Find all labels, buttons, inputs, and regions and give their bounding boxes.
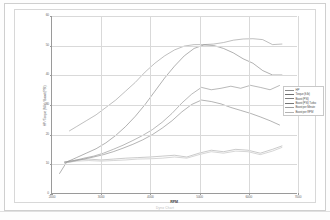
legend-item-label: Boost (PSI)	[296, 98, 309, 101]
x-axis-tick-label: 4000	[147, 196, 154, 199]
y-axis-tick-label: 30	[46, 103, 49, 106]
legend-swatch-line-icon	[285, 112, 294, 113]
grid-line-horizontal	[52, 105, 297, 106]
series-line-2	[64, 85, 280, 162]
y-axis-tick-mark	[50, 46, 52, 47]
grid-line-horizontal	[52, 16, 297, 17]
grid-line-vertical	[150, 16, 151, 193]
plot-area: 0102030405060200030004000500060007000	[51, 16, 297, 194]
x-axis-tick-label: 2000	[49, 196, 56, 199]
chart-legend: HPTorque (ft-lb)Boost (PSI)Boost (PSI) T…	[283, 86, 324, 116]
x-axis-title: RPM	[51, 200, 297, 204]
screenshot-root: HP / Torque (ft-lb) / Boost (PSI) 010203…	[0, 0, 330, 220]
x-axis-tick-label: 5000	[196, 196, 203, 199]
y-axis-tick-mark	[50, 16, 52, 17]
x-axis-tick-label: 3000	[98, 196, 105, 199]
x-axis-tick-label: 6000	[245, 196, 252, 199]
legend-swatch-line-icon	[285, 98, 294, 99]
grid-line-horizontal	[52, 46, 297, 47]
y-axis-tick-label: 50	[46, 44, 49, 47]
legend-swatch-line-icon	[285, 103, 294, 104]
y-axis-tick-mark	[50, 164, 52, 165]
series-line-3	[64, 100, 280, 163]
page-caption: Dyno Chart	[0, 206, 330, 210]
y-axis-tick-label: 40	[46, 74, 49, 77]
y-axis-tick-mark	[50, 135, 52, 136]
legend-swatch-line-icon	[285, 90, 294, 91]
y-axis-tick-mark	[50, 105, 52, 106]
grid-line-horizontal	[52, 135, 297, 136]
grid-line-vertical	[101, 16, 102, 193]
legend-item-label: Torque (ft-lb)	[296, 93, 310, 96]
legend-swatch-line-icon	[285, 94, 294, 95]
y-axis-tick-label: 20	[46, 133, 49, 136]
legend-item-label: Boost per Minute	[296, 106, 315, 109]
legend-swatch-line-icon	[285, 107, 294, 108]
sheet-edge-divider	[0, 211, 330, 212]
grid-line-horizontal	[52, 75, 297, 76]
legend-item[interactable]: Boost per RPM	[285, 110, 322, 114]
y-axis-tick-mark	[50, 75, 52, 76]
grid-line-vertical	[249, 16, 250, 193]
x-axis-tick-label: 7000	[295, 196, 302, 199]
grid-line-horizontal	[52, 164, 297, 165]
y-axis-tick-label: 60	[46, 14, 49, 17]
legend-item-label: Boost per RPM	[296, 111, 314, 114]
chart-container: HP / Torque (ft-lb) / Boost (PSI) 010203…	[14, 9, 316, 203]
y-axis-tick-label: 10	[46, 163, 49, 166]
grid-line-vertical	[200, 16, 201, 193]
